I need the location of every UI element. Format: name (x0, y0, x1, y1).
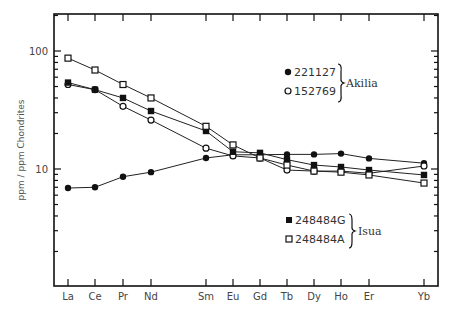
legend-label-248484g: 248484G (295, 214, 346, 227)
open-square-marker-icon (366, 172, 372, 178)
brace-icon (338, 64, 344, 102)
filled-square-marker-icon (120, 95, 126, 101)
legend-isua: 248484G 248484A Isua (286, 214, 382, 248)
x-tick-label-la: La (62, 291, 74, 302)
open-square-marker-icon (203, 123, 209, 129)
x-tick-label-sm: Sm (198, 291, 214, 302)
open-square-marker-icon (284, 162, 290, 168)
y-tick-label-100: 100 (29, 46, 48, 57)
open-square-marker-icon (120, 82, 126, 88)
filled-circle-marker-icon (120, 174, 126, 180)
data-series (65, 55, 427, 191)
filled-square-marker-icon (65, 79, 71, 85)
ree-chart: LaCePrNdSmEuGdTbDyHoErYb 100 10 ppm / pp… (0, 0, 453, 313)
x-tick-label-pr: Pr (118, 291, 129, 302)
filled-circle-marker-icon (148, 169, 154, 175)
filled-circle-marker-icon (285, 69, 291, 75)
filled-circle-marker-icon (338, 150, 344, 156)
open-square-marker-icon (148, 95, 154, 101)
x-tick-label-dy: Dy (307, 291, 321, 302)
filled-square-marker-icon (421, 172, 427, 178)
group-label-isua: Isua (358, 225, 382, 238)
x-tick-label-ho: Ho (334, 291, 348, 302)
filled-square-marker-icon (311, 162, 317, 168)
open-circle-marker-icon (148, 117, 154, 123)
filled-square-marker-icon (148, 108, 154, 114)
x-tick-label-eu: Eu (227, 291, 240, 302)
filled-circle-marker-icon (92, 184, 98, 190)
y-tick-label-10: 10 (35, 164, 48, 175)
filled-circle-marker-icon (366, 155, 372, 161)
x-tick-label-nd: Nd (144, 291, 158, 302)
filled-circle-marker-icon (203, 155, 209, 161)
legend-akilia: 221127 152769 Akilia (285, 64, 378, 102)
open-square-marker-icon (65, 55, 71, 61)
filled-circle-marker-icon (311, 151, 317, 157)
legend-label-248484a: 248484A (295, 233, 345, 246)
open-circle-marker-icon (421, 163, 427, 169)
open-square-marker-icon (230, 142, 236, 148)
open-square-marker-icon (338, 169, 344, 175)
open-circle-marker-icon (203, 145, 209, 151)
x-tick-label-yb: Yb (417, 291, 430, 302)
open-circle-marker-icon (285, 88, 291, 94)
open-square-marker-icon (421, 180, 427, 186)
open-square-marker-icon (286, 236, 292, 242)
x-tick-label-gd: Gd (253, 291, 267, 302)
legend-label-221127: 221127 (294, 66, 336, 79)
y-axis-label: ppm / ppm Chondrites (16, 99, 26, 200)
filled-square-marker-icon (92, 86, 98, 92)
open-square-marker-icon (92, 67, 98, 73)
filled-square-marker-icon (230, 149, 236, 155)
open-square-marker-icon (311, 168, 317, 174)
x-axis-ticks: LaCePrNdSmEuGdTbDyHoErYb (62, 14, 430, 302)
x-tick-label-er: Er (364, 291, 375, 302)
group-label-akilia: Akilia (345, 77, 378, 90)
x-tick-label-tb: Tb (280, 291, 293, 302)
open-square-marker-icon (257, 155, 263, 161)
legend-label-152769: 152769 (294, 85, 336, 98)
y-axis-ticks (54, 15, 438, 251)
x-tick-label-ce: Ce (88, 291, 101, 302)
filled-square-marker-icon (286, 217, 292, 223)
open-circle-marker-icon (120, 103, 126, 109)
plot-frame (54, 14, 438, 286)
filled-circle-marker-icon (65, 185, 71, 191)
brace-icon (349, 214, 355, 248)
